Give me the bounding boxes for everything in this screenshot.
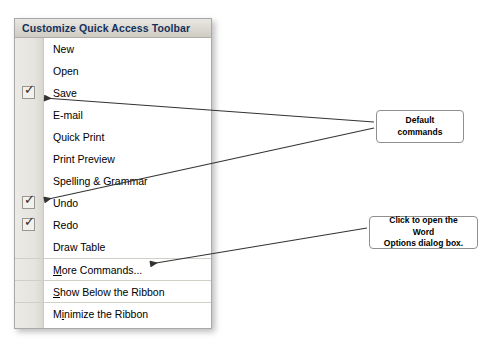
menu-item-label: Open bbox=[53, 60, 79, 82]
menu-item-spelling-and-grammar[interactable]: Spelling & Grammar bbox=[15, 170, 211, 192]
menu-item-list: New Open ✓ Save E-mail Quick Print Print… bbox=[15, 38, 211, 328]
menu-item-more-commands[interactable]: More Commands... bbox=[15, 258, 211, 280]
menu-item-new[interactable]: New bbox=[15, 38, 211, 60]
customize-quick-access-toolbar-menu: Customize Quick Access Toolbar New Open … bbox=[14, 18, 212, 329]
callout-default-commands: Default commands bbox=[376, 110, 464, 143]
menu-item-e-mail[interactable]: E-mail bbox=[15, 104, 211, 126]
callout-word-options: Click to open the Word Options dialog bo… bbox=[369, 216, 478, 249]
menu-item-show-below-the-ribbon[interactable]: Show Below the Ribbon bbox=[15, 280, 211, 302]
callout-line-1: Click to open the Word bbox=[374, 215, 473, 238]
callout-line-1: Default bbox=[394, 115, 447, 127]
menu-item-label: Save bbox=[53, 82, 77, 104]
checkbox-redo[interactable]: ✓ bbox=[22, 218, 35, 231]
menu-item-save[interactable]: ✓ Save bbox=[15, 82, 211, 104]
menu-item-open[interactable]: Open bbox=[15, 60, 211, 82]
menu-item-label: Undo bbox=[53, 192, 78, 214]
menu-item-draw-table[interactable]: Draw Table bbox=[15, 236, 211, 258]
menu-item-label: New bbox=[53, 38, 74, 60]
menu-item-label: More Commands... bbox=[53, 259, 142, 281]
callout-line-2: commands bbox=[394, 127, 447, 139]
menu-item-label: Print Preview bbox=[53, 148, 115, 170]
menu-item-label: Minimize the Ribbon bbox=[53, 303, 148, 325]
menu-item-label: Show Below the Ribbon bbox=[53, 281, 165, 303]
menu-item-label: Redo bbox=[53, 214, 78, 236]
menu-item-quick-print[interactable]: Quick Print bbox=[15, 126, 211, 148]
checkmark-icon: ✓ bbox=[24, 83, 35, 96]
menu-item-redo[interactable]: ✓ Redo bbox=[15, 214, 211, 236]
checkbox-save[interactable]: ✓ bbox=[22, 86, 35, 99]
checkbox-undo[interactable]: ✓ bbox=[22, 196, 35, 209]
checkmark-icon: ✓ bbox=[24, 193, 35, 206]
menu-item-label: Spelling & Grammar bbox=[53, 170, 148, 192]
menu-item-label: E-mail bbox=[53, 104, 83, 126]
menu-item-minimize-the-ribbon[interactable]: Minimize the Ribbon bbox=[15, 302, 211, 324]
menu-item-label: Quick Print bbox=[53, 126, 104, 148]
callout-text: Click to open the Word Options dialog bo… bbox=[370, 215, 477, 250]
callout-line-2: Options dialog box. bbox=[374, 238, 473, 250]
menu-item-print-preview[interactable]: Print Preview bbox=[15, 148, 211, 170]
menu-header-title: Customize Quick Access Toolbar bbox=[15, 19, 211, 38]
menu-item-label: Draw Table bbox=[53, 236, 105, 258]
checkmark-icon: ✓ bbox=[24, 215, 35, 228]
callout-text: Default commands bbox=[390, 115, 451, 138]
menu-item-undo[interactable]: ✓ Undo bbox=[15, 192, 211, 214]
